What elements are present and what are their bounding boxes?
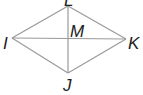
edge-KJ: [68, 39, 126, 73]
diagonal-IK: [12, 38, 126, 39]
edge-IL: [12, 6, 68, 38]
vertex-label-J: J: [62, 76, 72, 95]
rhombus-diagram: L I K J M: [0, 0, 143, 95]
vertex-label-I: I: [3, 34, 8, 53]
vertex-label-L: L: [64, 0, 73, 10]
vertex-label-K: K: [128, 34, 140, 53]
center-label-M: M: [70, 22, 85, 41]
edge-JI: [12, 38, 68, 73]
